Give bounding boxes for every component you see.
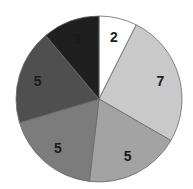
- pie-chart: 275553: [0, 0, 193, 189]
- slice-value-label: 5: [124, 148, 132, 164]
- slice-value-label: 2: [110, 29, 118, 45]
- slice-value-label: 5: [54, 140, 62, 156]
- slice-value-label: 3: [73, 31, 81, 47]
- pie-slices: [16, 16, 182, 182]
- slice-value-label: 5: [34, 73, 42, 89]
- slice-value-label: 7: [156, 73, 164, 89]
